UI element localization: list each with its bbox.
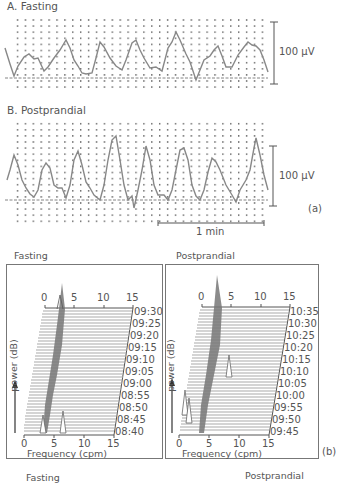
y-axis-label: power (dB) (165, 339, 176, 391)
footer-fasting-title: Fasting (26, 472, 60, 483)
egg-traces (0, 0, 342, 250)
time-label: 10:10 (280, 366, 309, 377)
time-label: 09:50 (272, 414, 301, 425)
time-label: 09:15 (128, 342, 157, 353)
time-label: 10:00 (276, 390, 305, 401)
bottom-tick: 15 (262, 438, 275, 449)
time-label: 10:15 (282, 354, 311, 365)
panel-b-title: B. Postprandial (7, 104, 86, 116)
y-axis-label: power (dB) (8, 339, 19, 391)
top-tick: 0 (41, 292, 47, 303)
time-label: 10:25 (286, 330, 315, 341)
time-label: 09:30 (134, 306, 163, 317)
top-tick: 15 (283, 291, 296, 302)
footer-postprandial-title: Postprandial (245, 470, 304, 481)
time-label: 09:00 (123, 378, 152, 389)
spectra-postprandial-title: Postprandial (176, 250, 235, 261)
panel-b-dot-grid (12, 120, 268, 226)
bottom-tick: 15 (107, 438, 120, 449)
top-tick: 10 (97, 292, 110, 303)
time-label: 08:50 (119, 402, 148, 413)
top-tick: 0 (198, 291, 204, 302)
time-label: 09:55 (274, 402, 303, 413)
time-label: 10:05 (278, 378, 307, 389)
time-label: 09:10 (126, 354, 155, 365)
x-axis-label: Frequency (cpm) (27, 448, 107, 459)
panel-a-scale-label: 100 µV (279, 46, 314, 57)
time-label: 08:45 (117, 414, 146, 425)
time-label: 10:35 (290, 306, 319, 317)
top-tick: 10 (254, 291, 267, 302)
top-tick: 5 (71, 292, 77, 303)
figure-tag-b: (b) (322, 446, 336, 457)
x-axis-label: Frequency (cpm) (182, 448, 262, 459)
spectra-fasting-title: Fasting (14, 250, 48, 261)
time-label: 10:30 (288, 318, 317, 329)
time-label: 09:20 (130, 330, 159, 341)
time-label: 08:40 (115, 426, 144, 437)
top-tick: 5 (228, 291, 234, 302)
time-label: 08:55 (121, 390, 150, 401)
time-label: 09:45 (270, 426, 299, 437)
time-label: 10:20 (284, 342, 313, 353)
spectra-postprandial-panel: 0 5 10 15 0 5 10 15 Frequency (cpm) powe… (165, 264, 319, 459)
spectra-fasting-panel: 0 5 10 15 0 5 10 15 Frequency (cpm) powe… (6, 264, 163, 459)
top-tick: 15 (126, 292, 139, 303)
time-label: 09:25 (132, 318, 161, 329)
time-scale-label: 1 min (196, 226, 224, 237)
figure-tag-a: (a) (308, 203, 322, 214)
time-label: 09:05 (125, 366, 154, 377)
panel-b-scale-label: 100 µV (279, 170, 314, 181)
panel-a-dot-grid (12, 16, 268, 92)
